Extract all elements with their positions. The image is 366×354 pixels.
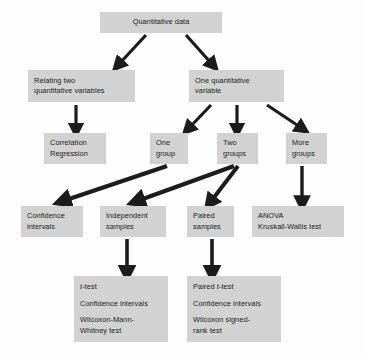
node-label-line-2: Confidence intervals [80, 299, 162, 310]
node-paired-samples[interactable]: Paired samples [187, 206, 234, 237]
flowchart-arrow-layer [0, 0, 366, 354]
node-independent-samples[interactable]: Independent samples [100, 206, 166, 237]
arrow-quantitative-data-to-relating-two [120, 35, 146, 63]
node-label-line-1: t-test [80, 282, 162, 293]
node-label-line-1: Confidence [27, 211, 77, 222]
node-label-line-1: Independent [106, 211, 160, 222]
node-anova-kruskall-wallis[interactable]: ANOVA Kruskall-Wallis test [252, 206, 344, 237]
arrow-quantitative-data-to-one-quantitative [186, 35, 211, 63]
arrow-one-quantitative-to-one-group [190, 105, 211, 127]
node-label-line-2: groups [292, 149, 321, 160]
node-quantitative-data[interactable]: Quantitative data [100, 12, 222, 33]
node-label-line-2: samples [193, 222, 228, 233]
node-label-line-1: Relating two [34, 76, 129, 87]
node-label-line-1: ANOVA [258, 211, 338, 222]
node-label-line-1: One [156, 138, 182, 149]
flowchart-canvas: Quantitative data Relating two quantitat… [0, 0, 366, 354]
italic-variable: t [217, 282, 219, 291]
node-label-line-1: Paired [193, 211, 228, 222]
node-label-line-2: intervals [27, 222, 77, 233]
node-label-line-3: Wilcoxon-Mann-Whitney test [80, 315, 162, 336]
node-independent-samples-tests[interactable]: t-testConfidence intervalsWilcoxon-Mann-… [74, 276, 168, 342]
node-label-line-2: Confidence intervals [193, 299, 275, 310]
node-label-line-2: Regression [50, 149, 100, 160]
node-label-line-2: samples [106, 222, 160, 233]
arrow-one-quantitative-to-more-groups [267, 105, 300, 127]
node-label-line-1: Two [223, 138, 252, 149]
node-confidence-intervals[interactable]: Confidence intervals [21, 206, 83, 237]
node-more-groups[interactable]: More groups [286, 133, 327, 164]
node-label-line-1: One quantitative [195, 76, 278, 87]
node-paired-samples-tests[interactable]: Paired t-testConfidence intervalsWilcoxo… [187, 276, 281, 342]
node-label-line-2: groups [223, 149, 252, 160]
node-label-line-1: Correlation [50, 138, 100, 149]
node-label-line-3: Wilcoxon signed-rank test [193, 315, 275, 336]
node-label-line-1: More [292, 138, 321, 149]
node-label-line-2: group [156, 149, 182, 160]
node-label-line-2: variable [195, 86, 278, 97]
node-relating-two-quantitative-variables[interactable]: Relating two quantitative variables [28, 70, 135, 102]
italic-variable: t [80, 282, 82, 291]
node-label-line-2: Kruskall-Wallis test [258, 222, 338, 233]
node-one-quantitative-variable[interactable]: One quantitative variable [189, 70, 284, 102]
node-two-groups[interactable]: Two groups [217, 133, 258, 164]
node-one-group[interactable]: One group [150, 133, 188, 164]
node-label: Quantitative data [133, 17, 190, 28]
node-label-line-1: Paired t-test [193, 282, 275, 293]
node-label-line-2: quantitative variables [34, 86, 129, 97]
node-correlation-regression[interactable]: Correlation Regression [44, 133, 106, 164]
